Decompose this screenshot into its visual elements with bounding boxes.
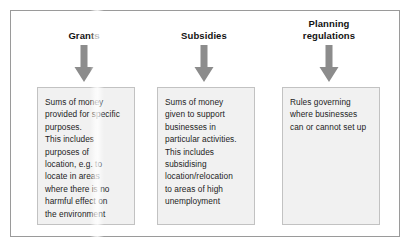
column-grants: Grants — [28, 18, 140, 86]
info-box-planning-regulations-text: Rules governing where businesses can or … — [290, 96, 372, 133]
column-subsidies: Subsidies — [148, 18, 260, 86]
arrow-down-icon — [273, 42, 385, 86]
info-box-subsidies: Sums of money given to support businesse… — [157, 87, 255, 225]
arrow-down-icon — [148, 42, 260, 86]
arrow-down-icon — [28, 42, 140, 86]
column-title-planning-regulations-line-2: regulations — [273, 30, 385, 42]
info-box-subsidies-text: Sums of money given to support businesse… — [165, 96, 247, 208]
info-box-grants-text: Sums of money provided for specific purp… — [45, 96, 127, 220]
column-title-subsidies-line-1: Subsidies — [148, 30, 260, 42]
column-title-subsidies: Subsidies — [148, 18, 260, 42]
column-title-planning-regulations: Planning regulations — [273, 18, 385, 42]
column-title-grants: Grants — [28, 18, 140, 42]
figure-container: Grants Subsidies Planning regulations — [0, 0, 411, 249]
column-planning-regulations: Planning regulations — [273, 18, 385, 86]
column-title-planning-regulations-line-1: Planning — [273, 18, 385, 30]
column-title-grants-line-1: Grants — [28, 30, 140, 42]
info-box-grants: Sums of money provided for specific purp… — [37, 87, 135, 225]
info-box-planning-regulations: Rules governing where businesses can or … — [282, 87, 380, 225]
